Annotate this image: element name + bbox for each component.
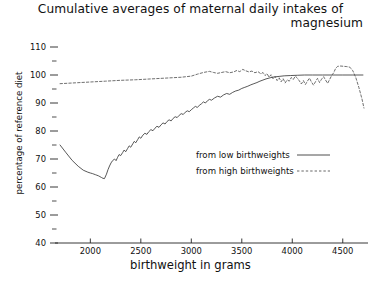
y-tick-label: 40 <box>12 238 46 248</box>
legend-lines <box>297 155 330 171</box>
y-axis-title: percentage of reference diet <box>14 58 24 208</box>
legend-label-high: from high birthweights <box>196 166 294 176</box>
chart-figure: Cumulative averages of maternal daily in… <box>0 0 381 288</box>
y-tick-label: 50 <box>12 210 46 220</box>
x-tick-label: 4500 <box>323 246 363 256</box>
plot-area <box>0 0 381 288</box>
data-series <box>60 66 364 179</box>
x-tick-label: 2000 <box>70 246 110 256</box>
legend-label-low: from low birthweights <box>196 150 290 160</box>
x-axis-title: birthweight in grams <box>0 258 381 272</box>
axes <box>50 47 368 243</box>
x-tick-label: 3000 <box>171 246 211 256</box>
series-line-low <box>60 75 363 179</box>
x-tick-label: 4000 <box>272 246 312 256</box>
series-line-high <box>60 66 364 108</box>
y-tick-label: 110 <box>12 42 46 52</box>
x-tick-label: 3500 <box>222 246 262 256</box>
x-tick-label: 2500 <box>121 246 161 256</box>
